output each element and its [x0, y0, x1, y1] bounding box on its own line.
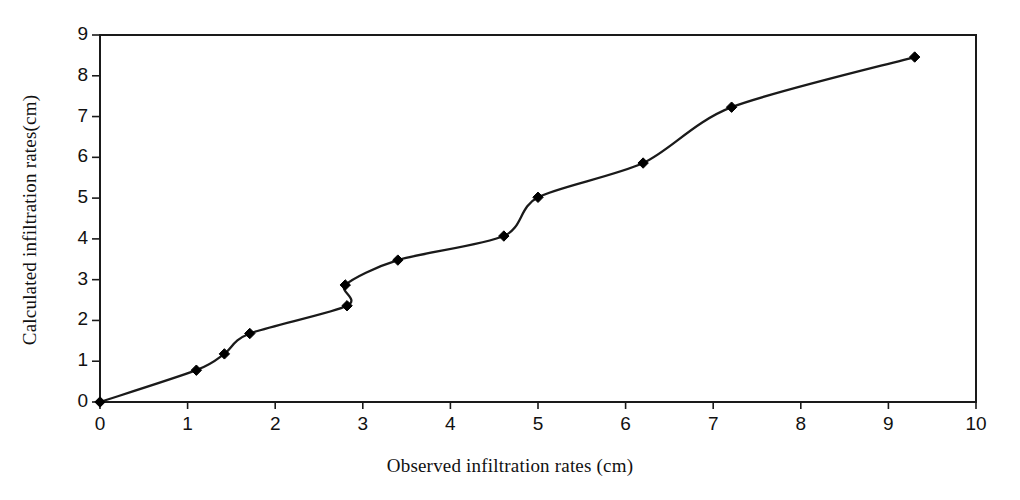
x-tick-label: 5	[518, 413, 558, 435]
chart-figure: 012345678910 0123456789 Observed infiltr…	[0, 0, 1020, 500]
y-tick-label: 2	[58, 308, 88, 330]
x-tick-label: 4	[430, 413, 470, 435]
y-tick-label: 5	[58, 186, 88, 208]
x-tick-label: 2	[255, 413, 295, 435]
y-axis-ticks	[92, 35, 100, 402]
y-tick-label: 1	[58, 349, 88, 371]
x-tick-label: 1	[168, 413, 208, 435]
y-tick-label: 8	[58, 64, 88, 86]
x-axis-ticks	[100, 402, 976, 409]
data-point-markers	[95, 52, 920, 407]
y-tick-label: 4	[58, 227, 88, 249]
x-tick-label: 7	[693, 413, 733, 435]
y-tick-label: 6	[58, 145, 88, 167]
x-tick-label: 0	[80, 413, 120, 435]
y-tick-label: 0	[58, 390, 88, 412]
x-tick-label: 8	[781, 413, 821, 435]
y-tick-label: 9	[58, 23, 88, 45]
y-axis-title: Calculated infiltration rates(cm)	[19, 95, 41, 345]
x-tick-label: 10	[956, 413, 996, 435]
x-tick-label: 6	[606, 413, 646, 435]
y-tick-label: 3	[58, 268, 88, 290]
x-axis-title: Observed infiltration rates (cm)	[0, 455, 1020, 477]
chart-plot-area	[0, 0, 1020, 500]
x-tick-label: 9	[868, 413, 908, 435]
y-tick-label: 7	[58, 105, 88, 127]
y-axis-title-container: Calculated infiltration rates(cm)	[0, 0, 60, 440]
x-tick-label: 3	[343, 413, 383, 435]
